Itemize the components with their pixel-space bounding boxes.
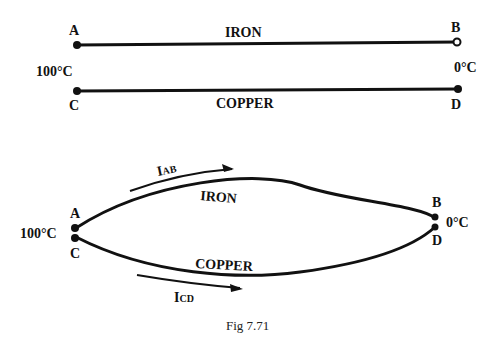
label-a: A bbox=[69, 23, 80, 38]
arrowhead-cd-icon bbox=[230, 284, 243, 292]
copper-wire-curved bbox=[76, 227, 435, 275]
junction-a-dot bbox=[71, 224, 79, 232]
label-temp-cold: 0°C bbox=[446, 215, 469, 230]
label-c: C bbox=[70, 246, 80, 261]
arrowhead-ab-icon bbox=[222, 164, 234, 172]
junction-a-dot bbox=[73, 41, 81, 49]
top-figure: A B C D IRON COPPER 100°C 0°C bbox=[36, 20, 477, 113]
label-current-cd: ICD bbox=[174, 290, 194, 305]
label-temp-hot: 100°C bbox=[36, 64, 73, 79]
junction-b-dot bbox=[432, 214, 439, 221]
junction-c-dot bbox=[71, 234, 79, 242]
label-current-ab: IAB bbox=[156, 160, 178, 179]
label-iron: IRON bbox=[200, 188, 238, 206]
label-iron: IRON bbox=[225, 25, 262, 40]
label-c: C bbox=[69, 98, 79, 113]
junction-c-dot bbox=[73, 87, 81, 95]
label-temp-hot: 100°C bbox=[20, 226, 57, 241]
bottom-figure: IAB ICD A C B D IRON COPPER 100°C 0°C bbox=[20, 160, 469, 305]
label-a: A bbox=[70, 206, 81, 221]
label-temp-cold: 0°C bbox=[454, 60, 477, 75]
junction-d-dot bbox=[432, 224, 439, 231]
figure-caption: Fig 7.71 bbox=[226, 318, 269, 333]
thermocouple-diagram: A B C D IRON COPPER 100°C 0°C IAB ICD A … bbox=[0, 0, 500, 349]
label-d: D bbox=[432, 233, 442, 248]
copper-wire-straight bbox=[76, 89, 458, 91]
label-b: B bbox=[451, 20, 460, 35]
label-d: D bbox=[451, 97, 461, 112]
label-b: B bbox=[432, 195, 441, 210]
label-copper: COPPER bbox=[195, 256, 254, 274]
iron-wire-straight bbox=[76, 42, 458, 45]
junction-d-dot bbox=[454, 85, 462, 93]
junction-b-dot bbox=[454, 39, 461, 46]
iron-wire-curved bbox=[76, 179, 435, 228]
label-copper: COPPER bbox=[216, 96, 274, 111]
current-arrow-cd bbox=[137, 275, 240, 288]
